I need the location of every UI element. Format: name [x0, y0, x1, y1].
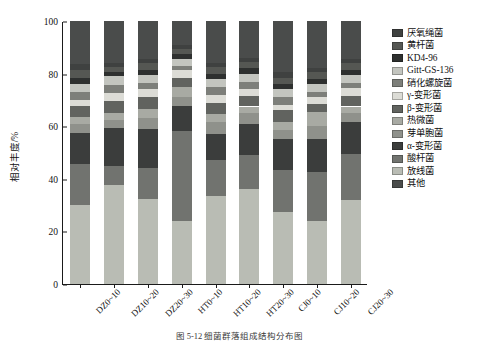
bar-segment[interactable] — [138, 129, 158, 168]
legend-item[interactable]: KD4-96 — [392, 52, 478, 65]
bar-segment[interactable] — [138, 59, 158, 63]
bar-segment[interactable] — [104, 76, 124, 85]
bar-segment[interactable] — [239, 96, 259, 107]
bar-segment[interactable] — [239, 21, 259, 58]
bar-segment[interactable] — [206, 67, 226, 74]
bar-segment[interactable] — [341, 75, 361, 83]
bar-segment[interactable] — [239, 189, 259, 284]
legend-item[interactable]: γ-变形菌 — [392, 90, 478, 103]
bar-segment[interactable] — [341, 200, 361, 284]
bar-segment[interactable] — [206, 95, 226, 103]
bar-segment[interactable] — [138, 70, 158, 75]
bar-segment[interactable] — [104, 128, 124, 166]
bar-segment[interactable] — [307, 112, 327, 126]
bar-segment[interactable] — [172, 21, 192, 45]
bar-segment[interactable] — [273, 110, 293, 122]
legend-item[interactable]: β-变形菌 — [392, 102, 478, 115]
bar-segment[interactable] — [273, 139, 293, 169]
bar-segment[interactable] — [138, 21, 158, 59]
bar-segment[interactable] — [104, 185, 124, 284]
bar-segment[interactable] — [307, 92, 327, 97]
bar-segment[interactable] — [104, 21, 124, 63]
bar-segment[interactable] — [206, 87, 226, 95]
bar-segment[interactable] — [138, 109, 158, 118]
bar-segment[interactable] — [239, 113, 259, 124]
bar-segment[interactable] — [307, 84, 327, 92]
bar-segment[interactable] — [341, 63, 361, 70]
bar-segment[interactable] — [172, 54, 192, 59]
bar-segment[interactable] — [341, 88, 361, 96]
bar-segment[interactable] — [70, 124, 90, 133]
bar-segment[interactable] — [307, 79, 327, 84]
bar-segment[interactable] — [239, 62, 259, 69]
bar-segment[interactable] — [138, 63, 158, 70]
bar-segment[interactable] — [341, 113, 361, 122]
bar-segment[interactable] — [273, 72, 293, 77]
bar-segment[interactable] — [70, 133, 90, 165]
bar-segment[interactable] — [341, 70, 361, 75]
bar-segment[interactable] — [273, 212, 293, 284]
bar-segment[interactable] — [273, 170, 293, 212]
bar-segment[interactable] — [239, 82, 259, 90]
bar-segment[interactable] — [104, 93, 124, 101]
bar-segment[interactable] — [104, 63, 124, 67]
bar-segment[interactable] — [172, 59, 192, 66]
legend-item[interactable]: 热微菌 — [392, 115, 478, 128]
bar-segment[interactable] — [172, 49, 192, 54]
legend-item[interactable]: 酸杆菌 — [392, 152, 478, 165]
bar-segment[interactable] — [70, 64, 90, 69]
bar-segment[interactable] — [70, 164, 90, 205]
bar-segment[interactable] — [138, 118, 158, 129]
bar-segment[interactable] — [172, 106, 192, 131]
bar-segment[interactable] — [239, 124, 259, 156]
bar-segment[interactable] — [341, 122, 361, 154]
bar-segment[interactable] — [273, 97, 293, 105]
bar-segment[interactable] — [104, 72, 124, 76]
bar-segment[interactable] — [138, 89, 158, 97]
bar-segment[interactable] — [307, 126, 327, 139]
bar-segment[interactable] — [70, 106, 90, 117]
legend-item[interactable]: α-变形菌 — [392, 140, 478, 153]
bar-segment[interactable] — [239, 107, 259, 114]
bar-segment[interactable] — [70, 21, 90, 64]
bar-segment[interactable] — [206, 103, 226, 115]
bar-segment[interactable] — [341, 96, 361, 107]
legend-item[interactable]: 放线菌 — [392, 165, 478, 178]
bar-segment[interactable] — [70, 100, 90, 107]
bar-segment[interactable] — [70, 117, 90, 124]
bar-segment[interactable] — [104, 166, 124, 186]
legend-item[interactable]: Gitt-GS-136 — [392, 65, 478, 78]
legend-item[interactable]: 厌氧绳菌 — [392, 27, 478, 40]
bar-segment[interactable] — [273, 105, 293, 110]
bar-segment[interactable] — [138, 97, 158, 109]
bar-segment[interactable] — [172, 87, 192, 98]
bar-segment[interactable] — [206, 196, 226, 284]
bar-segment[interactable] — [341, 154, 361, 200]
bar-segment[interactable] — [70, 70, 90, 78]
legend-item[interactable]: 黄杆菌 — [392, 40, 478, 53]
bar-segment[interactable] — [273, 78, 293, 85]
bar-column[interactable] — [239, 21, 259, 284]
bar-segment[interactable] — [206, 134, 226, 160]
bar-segment[interactable] — [307, 139, 327, 172]
bar-column[interactable] — [70, 21, 90, 284]
bar-column[interactable] — [172, 21, 192, 284]
bar-segment[interactable] — [104, 101, 124, 113]
bar-segment[interactable] — [172, 66, 192, 70]
bar-segment[interactable] — [307, 221, 327, 284]
bar-segment[interactable] — [273, 21, 293, 72]
bar-segment[interactable] — [70, 92, 90, 100]
bar-segment[interactable] — [239, 74, 259, 82]
bar-column[interactable] — [138, 21, 158, 284]
bar-segment[interactable] — [273, 130, 293, 139]
bar-segment[interactable] — [341, 107, 361, 114]
bar-column[interactable] — [206, 21, 226, 284]
bar-segment[interactable] — [206, 122, 226, 134]
bar-segment[interactable] — [104, 120, 124, 128]
bar-segment[interactable] — [172, 97, 192, 106]
legend-item[interactable]: 硝化螺旋菌 — [392, 77, 478, 90]
bar-segment[interactable] — [206, 79, 226, 87]
bar-segment[interactable] — [206, 21, 226, 63]
bar-segment[interactable] — [172, 78, 192, 87]
bar-segment[interactable] — [273, 84, 293, 89]
